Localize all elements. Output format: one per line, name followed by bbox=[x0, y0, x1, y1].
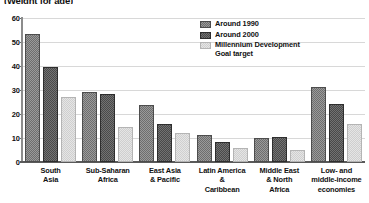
legend-swatch-icon bbox=[200, 32, 211, 39]
bar bbox=[139, 105, 154, 162]
x-axis-category-label: East Asia& Pacific bbox=[136, 166, 193, 203]
bar-group bbox=[22, 18, 79, 162]
bar bbox=[290, 150, 305, 162]
legend-label: Around 2000 bbox=[215, 30, 259, 39]
legend-swatch-icon bbox=[200, 42, 211, 49]
x-axis-category-label: Latin America&Caribbean bbox=[194, 166, 251, 203]
y-axis-tick-label: 60 bbox=[2, 15, 20, 22]
bar bbox=[100, 94, 115, 162]
y-axis-tick-label: 0 bbox=[2, 159, 20, 166]
chart-legend: Around 1990Around 2000Millennium Develop… bbox=[200, 19, 350, 60]
y-axis-tick-label: 20 bbox=[2, 111, 20, 118]
bar-group bbox=[79, 18, 136, 162]
bar bbox=[61, 97, 76, 162]
y-axis-tick-label: 30 bbox=[2, 87, 20, 94]
y-axis: 6050403020100 bbox=[0, 0, 20, 203]
legend-label: Millennium DevelopmentGoal target bbox=[215, 40, 300, 58]
x-axis-labels: SouthAsiaSub-SaharanAfricaEast Asia& Pac… bbox=[22, 166, 365, 203]
x-axis-category-label: Middle East& NorthAfrica bbox=[251, 166, 308, 203]
bar bbox=[311, 87, 326, 162]
chart-figure: (Weight for age) 6050403020100 SouthAsia… bbox=[0, 0, 369, 203]
bar bbox=[272, 137, 287, 162]
bar bbox=[82, 92, 97, 162]
bar bbox=[43, 67, 58, 162]
bar bbox=[215, 142, 230, 162]
x-axis-category-label: Sub-SaharanAfrica bbox=[79, 166, 136, 203]
bar bbox=[347, 124, 362, 162]
bar-group bbox=[136, 18, 193, 162]
legend-label: Around 1990 bbox=[215, 19, 259, 28]
bar bbox=[118, 127, 133, 162]
x-axis-category-label: Low- andmiddle-incomeeconomies bbox=[308, 166, 365, 203]
legend-item: Around 1990 bbox=[200, 19, 350, 28]
legend-swatch-icon bbox=[200, 21, 211, 28]
bar bbox=[233, 148, 248, 162]
bar bbox=[25, 34, 40, 162]
x-axis-category-label: SouthAsia bbox=[22, 166, 79, 203]
bar bbox=[197, 135, 212, 162]
bar bbox=[157, 124, 172, 162]
y-axis-tick-label: 50 bbox=[2, 39, 20, 46]
y-axis-tick-label: 40 bbox=[2, 63, 20, 70]
legend-item: Millennium DevelopmentGoal target bbox=[200, 40, 350, 58]
bar bbox=[329, 104, 344, 162]
legend-item: Around 2000 bbox=[200, 30, 350, 39]
y-axis-tick-label: 10 bbox=[2, 135, 20, 142]
bar bbox=[175, 133, 190, 162]
bar bbox=[254, 138, 269, 162]
